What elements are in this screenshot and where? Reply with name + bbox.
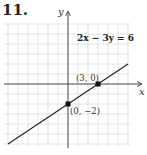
equation-label: 2x − 3y = 6 <box>77 33 134 43</box>
point-label-3-0: (3, 0) <box>76 73 99 83</box>
point-label-0-neg2: (0, −2) <box>70 106 100 116</box>
y-axis-label: y <box>57 6 64 17</box>
x-axis-label: x <box>139 86 145 97</box>
graph-labels: x y 2x − 3y = 6 (3, 0) (0, −2) <box>0 0 147 155</box>
